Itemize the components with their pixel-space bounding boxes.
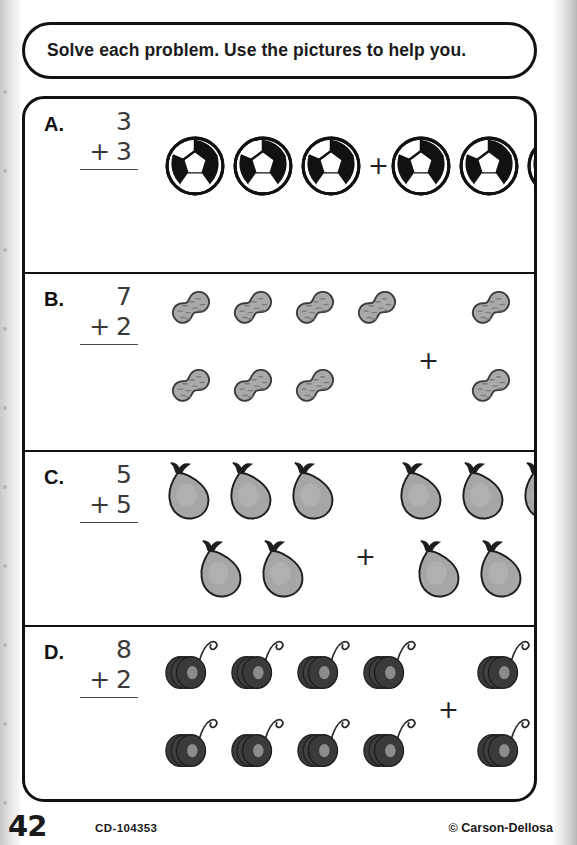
spiral-binding-marks — [3, 90, 13, 805]
yo-yo-icon — [470, 711, 536, 777]
instruction-text: Solve each problem. Use the pictures to … — [25, 40, 466, 61]
yo-yo-icon — [290, 633, 356, 699]
spiral-hole-icon — [3, 406, 7, 410]
pear-icon — [252, 534, 310, 606]
yo-yo-icon — [356, 711, 422, 777]
pear-icon — [408, 534, 466, 606]
picture-group-right-c-row2 — [408, 534, 537, 606]
problem-letter-a: A. — [44, 113, 64, 136]
problem-row-a: A. 3 + 3 — [25, 99, 534, 274]
yo-yo-icon — [470, 633, 536, 699]
addend-bottom-value-b: 2 — [116, 312, 132, 342]
addend-bottom-c: + 5 — [80, 490, 138, 523]
picture-group-left-d — [158, 633, 438, 699]
picture-group-left-b — [160, 282, 425, 334]
instruction-banner: Solve each problem. Use the pictures to … — [22, 22, 537, 79]
equation-stack-b: 7 + 2 — [80, 282, 138, 345]
problem-row-c: C. 5 + 5 — [25, 452, 534, 627]
spiral-hole-icon — [3, 90, 7, 94]
equation-c: C. 5 + 5 — [25, 452, 150, 625]
addend-bottom-value-a: 3 — [116, 137, 132, 167]
addend-bottom-a: + 3 — [80, 137, 138, 170]
equation-stack-c: 5 + 5 — [80, 460, 138, 523]
pear-icon — [470, 534, 528, 606]
problems-frame: A. 3 + 3 — [22, 96, 537, 802]
soccer-ball-icon — [526, 135, 537, 197]
soccer-ball-icon — [300, 135, 362, 197]
peanut-icon — [460, 282, 520, 334]
yo-yo-icon — [158, 633, 224, 699]
equation-stack-a: 3 + 3 — [80, 107, 138, 170]
picture-group-right-d-row2 — [470, 711, 537, 777]
addend-top-d: 8 — [80, 635, 138, 665]
spiral-hole-icon — [3, 248, 7, 252]
addend-top-c: 5 — [80, 460, 138, 490]
problem-row-d: D. 8 + 2 — [25, 627, 534, 799]
soccer-ball-icon — [164, 135, 226, 197]
pear-icon — [390, 456, 448, 528]
peanut-icon — [222, 360, 282, 412]
soccer-ball-icon — [390, 135, 452, 197]
equation-d: D. 8 + 2 — [25, 627, 150, 799]
page-number: 42 — [8, 809, 46, 843]
spiral-hole-icon — [3, 722, 7, 726]
peanut-icon — [160, 282, 220, 334]
problem-letter-c: C. — [44, 466, 64, 489]
scan-margin-right — [555, 0, 577, 845]
picture-group-left-c-row2 — [190, 534, 330, 606]
picture-area-c: + — [150, 452, 534, 625]
peanut-icon — [346, 282, 406, 334]
page-footer: 42 CD-104353 © Carson-Dellosa — [0, 802, 577, 845]
spiral-hole-icon — [3, 169, 7, 173]
pear-icon — [220, 456, 278, 528]
picture-group-left-d-row2 — [158, 711, 438, 777]
operator-c: + — [89, 490, 110, 520]
spiral-hole-icon — [3, 564, 7, 568]
addend-bottom-value-c: 5 — [116, 490, 132, 520]
pear-icon — [158, 456, 216, 528]
addend-bottom-d: + 2 — [80, 665, 138, 698]
pear-icon — [190, 534, 248, 606]
yo-yo-icon — [224, 711, 290, 777]
addend-top-a: 3 — [80, 107, 138, 137]
picture-area-a: + — [150, 99, 534, 272]
picture-group-left-a — [164, 135, 364, 197]
picture-group-right-b — [460, 282, 530, 334]
picture-group-left-b-row2 — [160, 360, 360, 412]
soccer-ball-icon — [232, 135, 294, 197]
spiral-hole-icon — [3, 485, 7, 489]
problem-row-b: B. 7 + 2 — [25, 274, 534, 452]
picture-area-b: + — [150, 274, 534, 450]
equation-a: A. 3 + 3 — [25, 99, 150, 272]
plus-sign-c: + — [355, 544, 376, 569]
scan-margin-left — [0, 0, 20, 845]
picture-group-right-c — [390, 456, 537, 528]
soccer-ball-icon — [458, 135, 520, 197]
picture-group-left-c — [158, 456, 348, 528]
spiral-hole-icon — [3, 643, 7, 647]
spiral-hole-icon — [3, 327, 7, 331]
picture-area-d: + — [150, 627, 534, 799]
addend-bottom-b: + 2 — [80, 312, 138, 345]
problem-letter-d: D. — [44, 641, 64, 664]
picture-group-right-d — [470, 633, 537, 699]
problem-letter-b: B. — [44, 288, 64, 311]
yo-yo-icon — [356, 633, 422, 699]
peanut-icon — [284, 360, 344, 412]
worksheet-page: Solve each problem. Use the pictures to … — [0, 0, 577, 845]
operator-a: + — [89, 137, 110, 167]
product-code: CD-104353 — [95, 822, 157, 834]
peanut-icon — [160, 360, 220, 412]
plus-sign-a: + — [368, 153, 389, 178]
pear-icon — [282, 456, 340, 528]
peanut-icon — [284, 282, 344, 334]
peanut-icon — [222, 282, 282, 334]
picture-group-right-a — [390, 135, 537, 197]
operator-d: + — [89, 665, 110, 695]
operator-b: + — [89, 312, 110, 342]
yo-yo-icon — [224, 633, 290, 699]
equation-b: B. 7 + 2 — [25, 274, 150, 450]
picture-group-right-b-row2 — [460, 360, 530, 412]
copyright-notice: © Carson-Dellosa — [449, 821, 553, 835]
addend-bottom-value-d: 2 — [116, 665, 132, 695]
